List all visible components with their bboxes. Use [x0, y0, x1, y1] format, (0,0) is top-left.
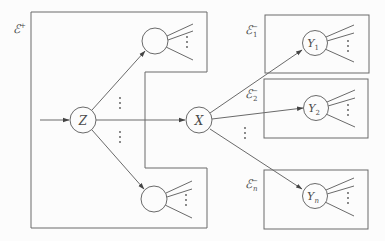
fan-bottom [165, 181, 192, 218]
ellipsis-z-lower [119, 131, 121, 143]
node-x-label: X [194, 114, 204, 128]
ellipsis-x-outputs [244, 127, 246, 139]
node-y2: Y2 [304, 96, 329, 121]
node-bottom [141, 186, 167, 212]
ellipsis-y2-fan [347, 104, 349, 116]
node-y1: Y1 [303, 31, 328, 56]
ellipsis-z-upper [119, 97, 121, 109]
region-e2-minus-label: ℰ−2 [245, 87, 258, 103]
edge-x-y2 [212, 108, 303, 119]
node-top [142, 28, 168, 54]
ellipsis-top-fan [186, 36, 188, 48]
fan-y2 [326, 90, 355, 127]
ellipsis-yn-fan [347, 192, 349, 204]
region-e1-minus-label: ℰ−1 [245, 23, 258, 39]
ellipsis-y1-fan [347, 40, 349, 52]
node-x: X [186, 107, 212, 133]
edge-z-bottom [92, 130, 144, 189]
region-en-minus-label: ℰ−n [245, 177, 258, 193]
edge-x-y1 [210, 50, 302, 113]
node-y1-sub: 1 [314, 44, 318, 52]
node-z: Z [70, 107, 96, 133]
diagram-canvas: Z X Y1 Y2 Yn ℰ+ ℰ−1 ℰ−2 ℰ−n [0, 0, 385, 241]
node-z-label: Z [78, 114, 88, 128]
node-y2-sub: 2 [315, 109, 319, 117]
edge-z-top [92, 51, 145, 110]
ellipsis-bottom-fan [185, 194, 187, 206]
fan-yn [325, 178, 354, 216]
region-e-plus-label: ℰ+ [13, 22, 26, 36]
node-yn: Yn [303, 184, 328, 209]
node-yn-sub: n [314, 197, 319, 205]
fan-top [166, 24, 193, 60]
fan-y1 [325, 25, 354, 62]
